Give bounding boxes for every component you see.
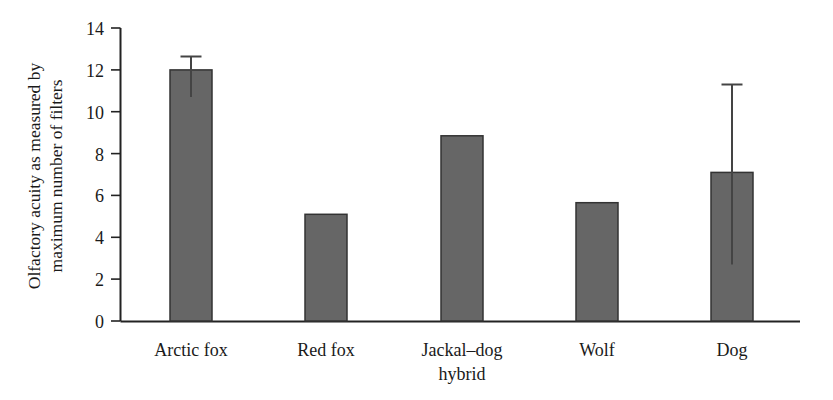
x-label-dog: Dog <box>717 340 748 360</box>
y-axis-tick-labels: 0 2 4 6 8 10 12 14 <box>86 19 104 332</box>
y-tick-label-0: 0 <box>95 312 104 332</box>
bar-jackal-dog-hybrid <box>441 136 483 321</box>
bar-chart-figure: Olfactory acuity as measured by maximum … <box>0 0 833 400</box>
x-label-red-fox: Red fox <box>297 340 355 360</box>
y-axis-label-line1: Olfactory acuity as measured by <box>24 63 44 290</box>
x-axis-category-labels: Arctic fox Red fox Jackal–dog hybrid Wol… <box>154 340 747 384</box>
y-axis-label-line2: maximum number of filters <box>46 79 66 272</box>
bar-red-fox <box>305 214 347 321</box>
y-tick-label-6: 6 <box>95 186 104 206</box>
y-tick-label-2: 2 <box>95 270 104 290</box>
bars-group <box>170 70 753 321</box>
x-label-wolf: Wolf <box>579 340 615 360</box>
y-axis-label: Olfactory acuity as measured by maximum … <box>24 63 66 290</box>
bar-arctic-fox <box>170 70 212 321</box>
y-tick-label-12: 12 <box>86 61 104 81</box>
y-tick-label-14: 14 <box>86 19 104 39</box>
y-tick-label-10: 10 <box>86 103 104 123</box>
y-axis-ticks <box>111 28 121 321</box>
x-label-jackal-dog-hybrid-line2: hybrid <box>439 364 486 384</box>
y-tick-label-8: 8 <box>95 145 104 165</box>
chart-canvas: Olfactory acuity as measured by maximum … <box>0 0 833 400</box>
y-tick-label-4: 4 <box>95 228 104 248</box>
x-label-jackal-dog-hybrid-line1: Jackal–dog <box>422 340 503 360</box>
x-label-arctic-fox: Arctic fox <box>154 340 227 360</box>
bar-wolf <box>576 203 618 321</box>
